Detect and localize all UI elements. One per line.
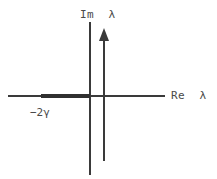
upward-arrow-head-icon [99, 28, 109, 41]
imaginary-axis-label: Im λ [80, 9, 116, 20]
complex-plane-figure: Im λ Re λ −2γ [0, 0, 217, 179]
real-axis-label: Re λ [171, 90, 207, 101]
left-endpoint-label: −2γ [30, 107, 50, 118]
